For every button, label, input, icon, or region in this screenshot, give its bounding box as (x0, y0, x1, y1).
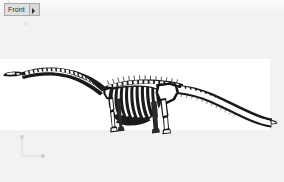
axis-label-x: X (24, 20, 27, 26)
top-toolbar: Front (0, 0, 284, 17)
axis-z-handle (20, 135, 23, 138)
viewport-canvas[interactable] (0, 59, 270, 130)
axis-label-z: Z (7, 0, 10, 6)
application-window: Front (0, 0, 284, 182)
axis-orientation-gizmo (16, 132, 50, 162)
axis-x-handle (41, 154, 44, 157)
chevron-down-icon[interactable] (29, 4, 39, 15)
